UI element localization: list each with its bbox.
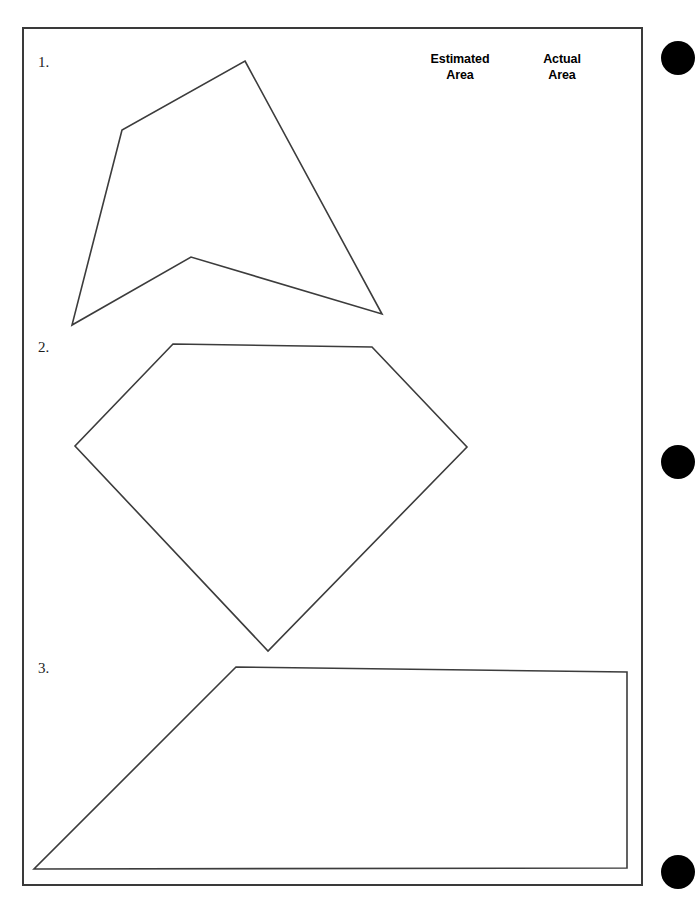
binder-hole-bottom (661, 855, 695, 889)
binder-hole-middle (661, 445, 695, 479)
binder-hole-top (661, 41, 695, 75)
header-estimated-area-line1: Estimated (400, 52, 520, 68)
header-actual-area: Actual Area (507, 52, 617, 83)
item-number-3: 3. (38, 661, 49, 676)
header-estimated-area: Estimated Area (400, 52, 520, 83)
page-border (22, 27, 643, 886)
item-number-1: 1. (38, 55, 49, 70)
header-actual-area-line1: Actual (507, 52, 617, 68)
column-headers: Estimated Area Actual Area (400, 52, 630, 98)
header-estimated-area-line2: Area (400, 68, 520, 84)
item-number-2: 2. (38, 340, 49, 355)
header-actual-area-line2: Area (507, 68, 617, 84)
